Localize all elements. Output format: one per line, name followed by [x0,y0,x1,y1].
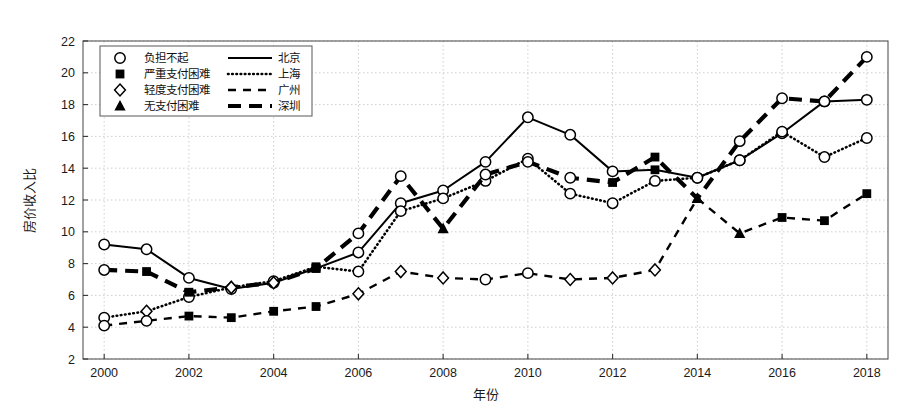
marker-unaffordable [777,126,787,136]
legend-series-label: 上海 [278,67,301,81]
marker-unaffordable [141,244,151,254]
x-axis-title: 年份 [473,387,499,402]
marker-unaffordable [607,198,617,208]
marker-unaffordable [353,228,363,238]
marker-unaffordable [396,171,406,181]
marker-severe-difficulty [312,302,321,311]
marker-unaffordable [99,320,109,330]
series-3 [99,189,871,331]
y-tick-label: 22 [61,35,75,49]
marker-unaffordable [99,239,109,249]
marker-unaffordable [862,52,872,62]
x-tick-label: 2010 [514,366,542,380]
legend: 负担不起严重支付困难轻度支付困难无支付困难北京上海广州深圳 [100,46,312,116]
x-tick-label: 2000 [90,366,118,380]
y-tick-label: 18 [61,98,75,112]
y-tick-label: 6 [68,289,75,303]
series-line-北京 [104,100,867,289]
x-tick-label: 2012 [599,366,627,380]
house-price-income-ratio-line-chart: 246810121416182022房价收入比20002002200420062… [0,0,906,414]
marker-mild-difficulty [353,288,364,300]
y-tick-label: 2 [68,353,75,367]
x-tick-label: 2018 [853,366,881,380]
marker-mild-difficulty [395,266,406,278]
marker-unaffordable [862,133,872,143]
marker-unaffordable [523,268,533,278]
marker-severe-difficulty [651,153,660,162]
marker-unaffordable [523,112,533,122]
x-tick-label: 2002 [175,366,203,380]
marker-severe-difficulty [269,307,278,316]
marker-mild-difficulty [438,272,449,284]
marker-unaffordable [99,265,109,275]
marker-unaffordable [396,206,406,216]
legend-series-label: 深圳 [278,99,300,113]
y-tick-label: 12 [61,194,75,208]
legend-marker-label: 负担不起 [144,51,189,65]
x-tick-label: 2016 [768,366,796,380]
legend-series-label: 广州 [278,83,300,97]
y-tick-label: 10 [61,225,75,239]
marker-unaffordable [777,93,787,103]
marker-unaffordable [565,173,575,183]
y-tick-label: 20 [61,66,75,80]
marker-unaffordable [480,274,490,284]
marker-severe-difficulty [227,313,236,322]
marker-unaffordable [862,95,872,105]
legend-marker-label: 严重支付困难 [144,67,210,81]
x-tick-label: 2004 [260,366,288,380]
y-axis: 246810121416182022房价收入比 [22,35,88,367]
marker-unaffordable [353,266,363,276]
marker-severe-difficulty [116,70,125,79]
marker-unaffordable [184,273,194,283]
marker-severe-difficulty [312,264,321,273]
series-1 [99,95,872,295]
y-tick-label: 14 [61,162,75,176]
series-line-广州 [104,194,867,326]
marker-severe-difficulty [185,312,194,321]
marker-unaffordable [438,193,448,203]
marker-unaffordable [735,136,745,146]
x-axis: 2000200220042006200820102012201420162018… [90,354,880,402]
x-tick-label: 2006 [344,366,372,380]
marker-severe-difficulty [820,216,829,225]
marker-severe-difficulty [142,267,151,276]
x-tick-label: 2014 [683,366,711,380]
marker-unaffordable [115,53,125,63]
y-tick-label: 16 [61,130,75,144]
legend-series-label: 北京 [278,51,300,65]
marker-unaffordable [480,157,490,167]
chart-root: 246810121416182022房价收入比20002002200420062… [0,0,906,414]
marker-unaffordable [353,247,363,257]
legend-marker-label: 无支付困难 [144,99,199,113]
marker-unaffordable [819,152,829,162]
marker-severe-difficulty [185,288,194,297]
marker-severe-difficulty [651,165,660,174]
marker-unaffordable [523,157,533,167]
x-tick-label: 2008 [429,366,457,380]
marker-unaffordable [565,130,575,140]
y-tick-label: 8 [68,257,75,271]
marker-unaffordable [480,169,490,179]
marker-unaffordable [607,166,617,176]
marker-mild-difficulty [565,274,576,286]
y-tick-label: 4 [68,321,75,335]
marker-severe-difficulty [778,213,787,222]
marker-unaffordable [650,176,660,186]
marker-severe-difficulty [608,178,617,187]
marker-unaffordable [735,155,745,165]
legend-marker-label: 轻度支付困难 [144,83,210,97]
y-axis-title: 房价收入比 [22,168,37,233]
marker-severe-difficulty [862,189,871,198]
marker-unaffordable [692,173,702,183]
marker-unaffordable [565,188,575,198]
marker-mild-difficulty [650,264,661,276]
marker-unaffordable [141,316,151,326]
marker-unaffordable [819,96,829,106]
marker-mild-difficulty [607,272,618,284]
